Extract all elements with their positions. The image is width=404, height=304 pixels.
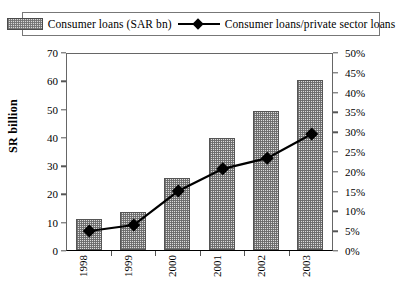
right-axis: 0%5%10%15%20%25%30%35%40%45%50% (333, 53, 403, 251)
legend-item-consumer-loans: Consumer loans (SAR bn) (7, 18, 172, 30)
chart-legend: Consumer loans (SAR bn) Consumer loans/p… (22, 12, 380, 36)
left-axis-tick-label: 10 (47, 217, 58, 229)
x-axis-tick-mark (155, 251, 156, 256)
x-axis-tick-1999: 1999 (111, 251, 156, 269)
x-axis-label: 2002 (255, 255, 267, 277)
line-series (67, 54, 334, 252)
legend-item-consumer-loans-ratio: Consumer loans/private sector loans (178, 18, 396, 30)
x-axis-tick-mark (289, 251, 290, 256)
right-axis-tick-label: 20% (345, 166, 365, 178)
x-axis: 199819992000200120022003 (66, 251, 333, 301)
left-axis-tick-label: 70 (47, 47, 58, 59)
right-axis-tick-label: 15% (345, 186, 365, 198)
x-axis-tick-2000: 2000 (155, 251, 200, 269)
line-marker-2003 (305, 127, 318, 140)
line-marker-2001 (216, 162, 229, 175)
line-marker-2002 (261, 152, 274, 165)
right-axis-tick-label: 45% (345, 67, 365, 79)
left-axis-tick-label: 30 (47, 160, 58, 172)
x-axis-tick-2002: 2002 (244, 251, 289, 269)
legend-label-consumer-loans-ratio: Consumer loans/private sector loans (225, 18, 396, 30)
x-axis-tick-mark (200, 251, 201, 256)
legend-label-consumer-loans: Consumer loans (SAR bn) (48, 18, 172, 30)
right-axis-tick-mark (333, 211, 338, 212)
left-axis: SR billion 010203040506070 (0, 53, 66, 251)
left-axis-tick-label: 20 (47, 188, 58, 200)
right-axis-tick-label: 10% (345, 205, 365, 217)
left-axis-tick-label: 40 (47, 132, 58, 144)
left-axis-tick-label: 0 (53, 245, 59, 257)
left-axis-tick-label: 60 (47, 75, 58, 87)
legend-bar-swatch-icon (7, 18, 43, 30)
right-axis-tick-label: 40% (345, 87, 365, 99)
line-marker-1998 (83, 225, 96, 238)
x-axis-tick-1998: 1998 (66, 251, 111, 269)
x-axis-label: 1999 (122, 255, 134, 277)
right-axis-tick-mark (333, 72, 338, 73)
x-axis-tick-mark (244, 251, 245, 256)
right-axis-tick-mark (333, 92, 338, 93)
x-axis-tick-2003: 2003 (289, 251, 334, 269)
x-axis-label: 2003 (300, 255, 312, 277)
right-axis-tick-label: 25% (345, 146, 365, 158)
right-axis-tick-label: 0% (345, 245, 360, 257)
x-axis-label: 2000 (166, 255, 178, 277)
right-axis-tick-label: 5% (345, 225, 360, 237)
x-axis-tick-mark (111, 251, 112, 256)
left-axis-tick-label: 50 (47, 104, 58, 116)
chart-figure: Consumer loans (SAR bn) Consumer loans/p… (0, 0, 404, 304)
plot-area (66, 53, 333, 251)
line-path (89, 134, 312, 231)
right-axis-tick-label: 30% (345, 126, 365, 138)
right-axis-tick-mark (333, 52, 338, 53)
right-axis-tick-mark (333, 171, 338, 172)
right-axis-tick-mark (333, 151, 338, 152)
right-axis-tick-mark (333, 230, 338, 231)
right-axis-tick-label: 35% (345, 106, 365, 118)
left-axis-title: SR billion (6, 99, 21, 153)
right-axis-tick-mark (333, 191, 338, 192)
right-axis-tick-mark (333, 112, 338, 113)
legend-line-diamond-icon (178, 19, 220, 29)
right-axis-tick-mark (333, 131, 338, 132)
right-axis-tick-mark (333, 250, 338, 251)
x-axis-tick-2001: 2001 (200, 251, 245, 269)
x-axis-label: 2001 (211, 255, 223, 277)
right-axis-tick-label: 50% (345, 47, 365, 59)
x-axis-label: 1998 (77, 255, 89, 277)
